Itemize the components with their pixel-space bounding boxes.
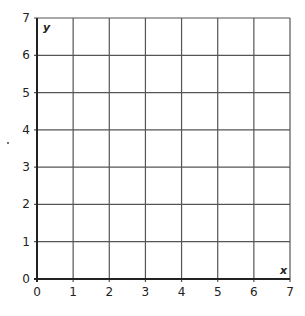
x-tick-labels: 01234567 [33, 285, 294, 299]
x-tick-label: 2 [105, 285, 113, 299]
x-tick-label: 5 [214, 285, 222, 299]
x-axis-label: x [279, 264, 288, 277]
y-tick-label: 5 [22, 86, 30, 100]
y-tick-label: 0 [22, 272, 30, 286]
x-tick-label: 1 [69, 285, 77, 299]
y-tick-label: 7 [22, 11, 30, 25]
y-tick-label: 2 [22, 197, 30, 211]
axes [34, 18, 290, 282]
x-tick-label: 4 [178, 285, 186, 299]
y-tick-label: 4 [22, 123, 30, 137]
y-tick-label: 3 [22, 160, 30, 174]
x-tick-label: 7 [286, 285, 294, 299]
y-tick-label: 6 [22, 48, 30, 62]
y-tick-label: 1 [22, 235, 30, 249]
x-tick-label: 3 [142, 285, 150, 299]
y-tick-labels: 01234567 [22, 11, 30, 286]
y-axis-label: y [43, 21, 51, 34]
gridlines [34, 18, 290, 282]
x-tick-label: 6 [250, 285, 258, 299]
x-tick-label: 0 [33, 285, 41, 299]
coordinate-grid: 01234567 01234567 x y [0, 0, 305, 316]
stray-mark [7, 142, 9, 144]
